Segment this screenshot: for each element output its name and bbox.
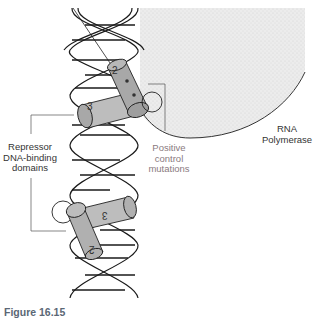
positive-label-line1: Positive: [145, 143, 193, 154]
repressor-domains-label: Repressor DNA-binding domains: [2, 142, 58, 174]
upper-helix-3-label: 3: [87, 102, 93, 113]
positive-label-line3: mutations: [145, 164, 193, 175]
rna-polymerase-label-line1: RNA: [262, 124, 312, 135]
repressor-label-line3: domains: [2, 163, 58, 174]
lower-helix-3-label: 3: [102, 209, 108, 220]
figure-caption: Figure 16.15: [4, 306, 65, 318]
rna-polymerase-label-line2: Polymerase: [262, 135, 312, 146]
rna-polymerase-label: RNA Polymerase: [262, 124, 312, 145]
dna-double-helix: [64, 8, 144, 298]
lower-repressor-domain: [52, 195, 138, 262]
repressor-label-line1: Repressor: [2, 142, 58, 153]
upper-helix-2-label: 2: [112, 66, 118, 77]
lower-helix-2-label: 2: [89, 243, 95, 254]
positive-control-mutations-label: Positive control mutations: [145, 143, 193, 175]
